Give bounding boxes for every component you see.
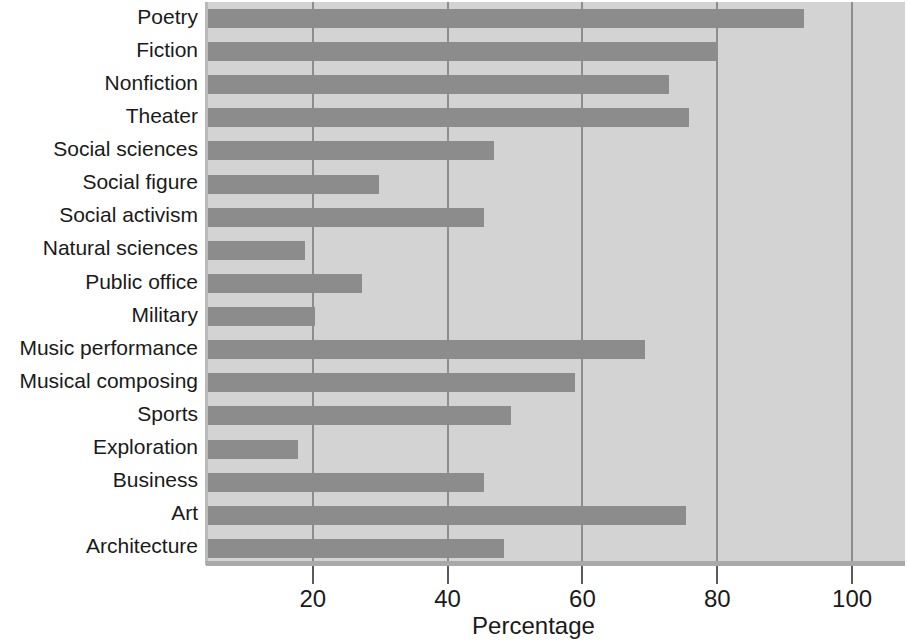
category-label: Musical composing	[0, 370, 198, 391]
category-label: Theater	[0, 105, 198, 126]
category-label: Social figure	[0, 171, 198, 192]
bar-row	[206, 68, 905, 101]
category-label: Social activism	[0, 204, 198, 225]
category-label: Social sciences	[0, 138, 198, 159]
x-tick-label: 60	[569, 586, 596, 612]
bar	[206, 307, 315, 326]
bar	[206, 340, 645, 359]
bar-row	[206, 168, 905, 201]
bar	[206, 241, 305, 260]
bar-row	[206, 2, 905, 35]
bar	[206, 373, 575, 392]
x-tick-label: 40	[434, 586, 461, 612]
category-label: Architecture	[0, 535, 198, 556]
bar	[206, 141, 494, 160]
category-label: Military	[0, 304, 198, 325]
bar	[206, 473, 484, 492]
bar-row	[206, 466, 905, 499]
x-tick-label: 80	[704, 586, 731, 612]
category-axis-labels: PoetryFictionNonfictionTheaterSocial sci…	[0, 0, 198, 563]
x-tick-mark	[447, 566, 449, 584]
bar-row	[206, 267, 905, 300]
x-axis-title: Percentage	[0, 613, 907, 639]
chart-figure: PoetryFictionNonfictionTheaterSocial sci…	[0, 0, 907, 644]
category-label: Nonfiction	[0, 72, 198, 93]
bar	[206, 75, 669, 94]
bar-row	[206, 134, 905, 167]
plot-area	[206, 2, 905, 565]
bar-row	[206, 300, 905, 333]
category-label: Public office	[0, 271, 198, 292]
x-tick-label: 100	[832, 586, 872, 612]
bar	[206, 274, 362, 293]
bar-row	[206, 333, 905, 366]
bar	[206, 506, 686, 525]
bar-row	[206, 201, 905, 234]
x-tick-mark	[312, 566, 314, 584]
category-label: Natural sciences	[0, 237, 198, 258]
bar-row	[206, 399, 905, 432]
x-tick-mark	[581, 566, 583, 584]
bar	[206, 208, 484, 227]
x-tick-mark	[716, 566, 718, 584]
bar	[206, 9, 804, 28]
x-tick-mark	[851, 566, 853, 584]
category-label: Fiction	[0, 39, 198, 60]
bar-row	[206, 35, 905, 68]
category-label: Exploration	[0, 436, 198, 457]
bar	[206, 539, 504, 558]
bar-row	[206, 366, 905, 399]
bar-row	[206, 234, 905, 267]
category-label: Sports	[0, 403, 198, 424]
bar	[206, 175, 379, 194]
bar	[206, 406, 511, 425]
category-label: Business	[0, 469, 198, 490]
bar-row	[206, 101, 905, 134]
bar	[206, 108, 689, 127]
bar-row	[206, 433, 905, 466]
x-tick-label: 20	[299, 586, 326, 612]
bar	[206, 440, 298, 459]
category-label: Poetry	[0, 6, 198, 27]
plot-left-edge	[205, 2, 208, 565]
bar-row	[206, 499, 905, 532]
category-label: Art	[0, 502, 198, 523]
category-label: Music performance	[0, 337, 198, 358]
bar	[206, 42, 716, 61]
